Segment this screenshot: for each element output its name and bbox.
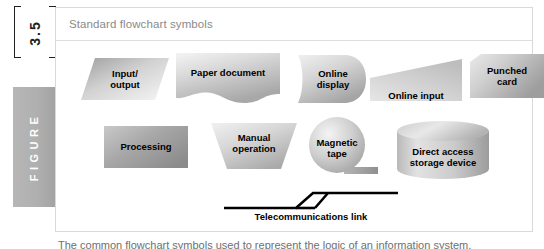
figure-number-bracket: 3.5: [14, 2, 56, 64]
symbol-online-display[interactable]: Online display: [288, 55, 366, 103]
cylinder-icon: [397, 121, 489, 179]
symbol-telecommunications-link[interactable]: Telecommunications link: [216, 189, 406, 227]
zigzag-line-icon: [216, 189, 406, 211]
document-icon: [176, 53, 280, 105]
magnetic-tape-icon: [307, 117, 383, 179]
trapezoid-icon: [370, 59, 462, 101]
rectangle-icon: [104, 126, 188, 168]
figure-panel: Standard flowchart symbols Input/ output: [55, 7, 533, 232]
symbol-label-telecommunications-link: Telecommunications link: [216, 211, 406, 222]
symbol-paper-document[interactable]: Paper document: [176, 53, 280, 105]
punched-card-icon: [470, 54, 544, 98]
symbol-punched-card[interactable]: Punched card: [470, 54, 544, 98]
panel-body: Input/ output Paper document: [56, 41, 532, 232]
parallelogram-icon: [81, 58, 169, 100]
figure-tab: FIGURE: [13, 87, 55, 207]
symbol-online-input[interactable]: Online input: [370, 59, 462, 101]
symbol-processing[interactable]: Processing: [104, 126, 188, 168]
figure-caption: The common flowchart symbols used to rep…: [58, 240, 528, 249]
symbol-magnetic-tape[interactable]: Magnetic tape: [307, 117, 383, 179]
figure-tab-label: FIGURE: [13, 87, 55, 207]
figure-caption-text: The common flowchart symbols used to rep…: [58, 240, 528, 249]
page-title: Standard flowchart symbols: [69, 18, 213, 30]
inverted-trapezoid-icon: [211, 123, 297, 169]
symbol-manual-operation[interactable]: Manual operation: [211, 123, 297, 169]
display-icon: [288, 55, 366, 103]
symbol-direct-access-storage[interactable]: Direct access storage device: [397, 121, 489, 179]
symbol-input-output[interactable]: Input/ output: [81, 58, 169, 100]
panel-header: Standard flowchart symbols: [56, 8, 532, 41]
